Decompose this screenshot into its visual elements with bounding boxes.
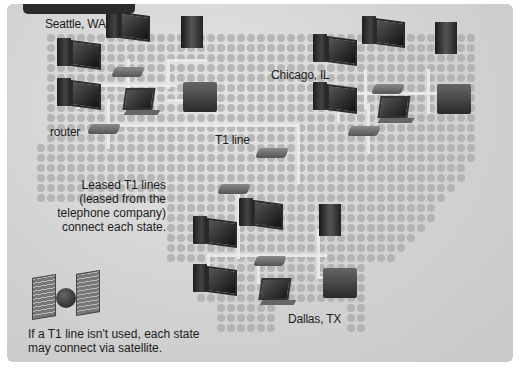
map-dot <box>307 244 315 252</box>
map-dot <box>237 154 245 162</box>
map-dot <box>287 234 295 242</box>
caption-line: Leased T1 lines <box>37 178 166 192</box>
map-dot <box>347 314 355 322</box>
map-dot <box>347 244 355 252</box>
map-dot <box>87 114 95 122</box>
map-dot <box>437 134 445 142</box>
map-dot <box>167 44 175 52</box>
map-dot <box>297 204 305 212</box>
map-dot <box>377 184 385 192</box>
map-dot <box>277 244 285 252</box>
map-dot <box>387 234 395 242</box>
map-dot <box>97 164 105 172</box>
map-dot <box>267 44 275 52</box>
map-dot <box>327 254 335 262</box>
map-dot <box>297 94 305 102</box>
map-dot <box>317 194 325 202</box>
map-dot <box>367 64 375 72</box>
map-dot <box>187 74 195 82</box>
map-dot <box>417 144 425 152</box>
label-t1-line: T1 line <box>215 133 250 147</box>
map-dot <box>137 54 145 62</box>
map-dot <box>117 134 125 142</box>
map-dot <box>197 74 205 82</box>
router-icon <box>347 126 381 136</box>
map-dot <box>437 174 445 182</box>
map-dot <box>97 144 105 152</box>
map-dot <box>327 124 335 132</box>
network-line <box>297 124 300 184</box>
map-dot <box>407 134 415 142</box>
map-dot <box>207 184 215 192</box>
map-dot <box>297 274 305 282</box>
map-dot <box>447 64 455 72</box>
map-dot <box>177 64 185 72</box>
map-dot <box>337 154 345 162</box>
map-dot <box>277 174 285 182</box>
map-dot <box>417 204 425 212</box>
map-dot <box>267 104 275 112</box>
map-dot <box>357 54 365 62</box>
map-dot <box>387 244 395 252</box>
map-dot <box>167 174 175 182</box>
map-dot <box>227 314 235 322</box>
map-dot <box>417 44 425 52</box>
map-dot <box>407 54 415 62</box>
map-dot <box>247 274 255 282</box>
map-dot <box>157 114 165 122</box>
map-dot <box>367 154 375 162</box>
map-dot <box>207 34 215 42</box>
map-dot <box>207 44 215 52</box>
map-dot <box>437 124 445 132</box>
map-dot <box>327 114 335 122</box>
map-dot <box>237 294 245 302</box>
map-dot <box>237 274 245 282</box>
map-dot <box>377 144 385 152</box>
map-dot <box>307 284 315 292</box>
map-dot <box>167 234 175 242</box>
network-line <box>427 69 430 114</box>
map-dot <box>57 164 65 172</box>
map-dot <box>187 154 195 162</box>
map-dot <box>107 54 115 62</box>
map-dot <box>447 54 455 62</box>
desktop-computer-icon <box>375 18 405 48</box>
map-dot <box>397 144 405 152</box>
map-dot <box>167 164 175 172</box>
map-dot <box>407 194 415 202</box>
map-dot <box>417 154 425 162</box>
map-dot <box>307 194 315 202</box>
map-dot <box>277 84 285 92</box>
map-dot <box>207 134 215 142</box>
router-icon <box>87 124 121 134</box>
map-dot <box>387 64 395 72</box>
map-dot <box>287 164 295 172</box>
map-dot <box>347 114 355 122</box>
caption-line: If a T1 line isn't used, each state <box>28 327 228 341</box>
caption-line: (leased from the <box>37 192 166 206</box>
map-dot <box>267 164 275 172</box>
map-dot <box>137 164 145 172</box>
map-dot <box>347 144 355 152</box>
map-dot <box>397 244 405 252</box>
map-dot <box>407 234 415 242</box>
map-dot <box>217 294 225 302</box>
map-dot <box>187 194 195 202</box>
map-dot <box>287 134 295 142</box>
map-dot <box>237 284 245 292</box>
map-dot <box>327 154 335 162</box>
map-dot <box>247 74 255 82</box>
map-dot <box>67 114 75 122</box>
map-dot <box>287 54 295 62</box>
map-dot <box>347 184 355 192</box>
map-dot <box>347 304 355 312</box>
map-dot <box>247 104 255 112</box>
caption-line: connect each state. <box>37 220 166 234</box>
map-dot <box>367 224 375 232</box>
map-dot <box>337 184 345 192</box>
map-dot <box>207 74 215 82</box>
map-dot <box>417 164 425 172</box>
desktop-computer-icon <box>327 84 357 114</box>
map-dot <box>47 114 55 122</box>
map-dot <box>367 164 375 172</box>
